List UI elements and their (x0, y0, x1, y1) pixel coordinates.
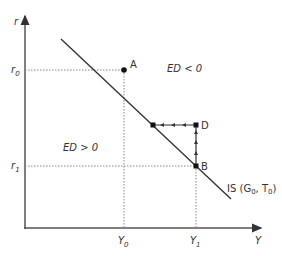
y-axis-label: r (14, 16, 19, 27)
point-d-label: D (201, 120, 209, 131)
x-axis-label: Y (255, 235, 262, 246)
is-curve-label: IS (G0, T0) (227, 183, 277, 196)
point-is-meet-marker (151, 123, 156, 128)
r0-tick-label: r0 (11, 64, 20, 78)
is-curve (61, 39, 231, 199)
y0-tick-label: Y0 (118, 235, 129, 249)
point-a-label: A (130, 59, 137, 70)
point-b-label: B (201, 161, 208, 172)
point-a-marker (121, 67, 127, 73)
region-ed-negative: ED < 0 (167, 63, 202, 74)
point-b-marker (194, 164, 199, 169)
is-curve-diagram: A B D r Y r0 r1 Y0 Y1 ED < 0 ED > 0 IS (… (0, 0, 282, 256)
diagram-canvas: A B D r Y r0 r1 Y0 Y1 ED < 0 ED > 0 IS (… (0, 0, 282, 256)
y1-tick-label: Y1 (190, 235, 201, 249)
r1-tick-label: r1 (11, 160, 20, 174)
region-ed-positive: ED > 0 (63, 142, 98, 153)
point-d-marker (194, 123, 199, 128)
